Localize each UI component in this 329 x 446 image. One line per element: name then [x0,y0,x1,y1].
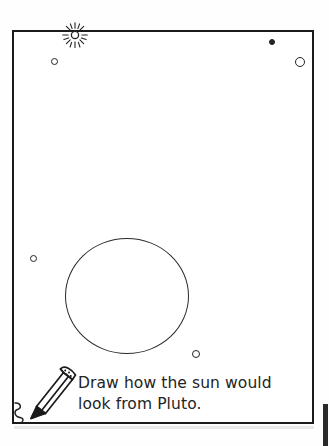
drawing-circle[interactable] [65,238,189,354]
worksheet-page: Draw how the sun would look from Pluto. [0,0,329,446]
star-dot-lower-middle [192,350,200,358]
scan-edge-bar [323,404,328,446]
instruction-text: Draw how the sun would look from Pluto. [78,373,306,415]
sun-icon [62,22,88,48]
scan-shading [14,426,314,429]
star-dot-upper-left [51,58,58,65]
pencil-icon [20,362,78,422]
star-dot-upper-right [269,39,275,45]
star-circle-right [295,57,305,67]
star-dot-mid-left [30,255,37,262]
